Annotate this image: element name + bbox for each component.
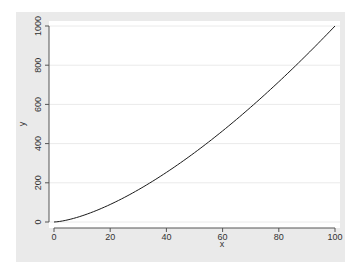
x-tick-label: 100 xyxy=(327,232,342,242)
y-tick-label: 200 xyxy=(33,175,43,190)
line-chart: 02004006008001000 020406080100 x y xyxy=(0,0,363,274)
x-tick-label: 80 xyxy=(274,232,284,242)
x-axis-title: x xyxy=(220,239,225,249)
x-axis: 020406080100 xyxy=(51,228,342,242)
plot-region xyxy=(49,21,340,228)
x-tick-label: 0 xyxy=(51,232,56,242)
y-tick-label: 1000 xyxy=(33,16,43,36)
y-tick-label: 800 xyxy=(33,58,43,73)
y-tick-label: 600 xyxy=(33,97,43,112)
x-tick-label: 40 xyxy=(161,232,171,242)
y-tick-label: 400 xyxy=(33,136,43,151)
x-tick-label: 20 xyxy=(105,232,115,242)
y-axis: 02004006008001000 xyxy=(33,16,49,225)
y-tick-label: 0 xyxy=(33,219,43,224)
y-axis-title: y xyxy=(17,121,27,126)
